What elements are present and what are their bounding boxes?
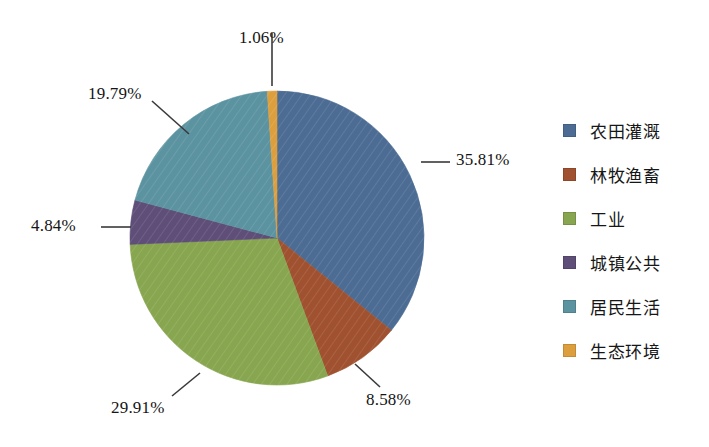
legend-item-label: 居民生活: [590, 294, 660, 319]
legend-swatch-icon: [563, 300, 576, 313]
legend-item[interactable]: 林牧渔畜: [563, 152, 703, 196]
legend-item-label: 工业: [590, 206, 625, 231]
legend-item[interactable]: 工业: [563, 196, 703, 240]
legend-item-label: 城镇公共: [590, 250, 660, 275]
pie-chart-figure: 1.06% 19.79% 4.84% 29.91% 8.58% 35.81% 农…: [0, 0, 709, 447]
pie-label-urban-public: 4.84%: [31, 216, 76, 236]
legend-swatch-icon: [563, 168, 576, 181]
chart-legend: 农田灌溉林牧渔畜工业城镇公共居民生活生态环境: [563, 108, 703, 372]
legend-item-label: 林牧渔畜: [590, 162, 660, 187]
pie-label-forestry: 8.58%: [366, 390, 411, 410]
legend-item[interactable]: 居民生活: [563, 284, 703, 328]
legend-item[interactable]: 城镇公共: [563, 240, 703, 284]
leader-line-residential: [152, 101, 189, 134]
legend-item-label: 农田灌溉: [590, 118, 660, 143]
legend-swatch-icon: [563, 212, 576, 225]
pie-label-irrigation: 35.81%: [456, 150, 510, 170]
legend-swatch-icon: [563, 124, 576, 137]
leader-line-forestry: [355, 364, 380, 387]
legend-item[interactable]: 农田灌溉: [563, 108, 703, 152]
leader-line-industry: [172, 373, 200, 396]
legend-swatch-icon: [563, 256, 576, 269]
pie-texture-overlay: [130, 91, 424, 385]
legend-item-label: 生态环境: [590, 338, 660, 363]
pie-label-industry: 29.91%: [111, 398, 165, 418]
legend-item[interactable]: 生态环境: [563, 328, 703, 372]
pie-label-residential: 19.79%: [88, 84, 142, 104]
legend-swatch-icon: [563, 344, 576, 357]
pie-label-eco: 1.06%: [239, 28, 284, 48]
